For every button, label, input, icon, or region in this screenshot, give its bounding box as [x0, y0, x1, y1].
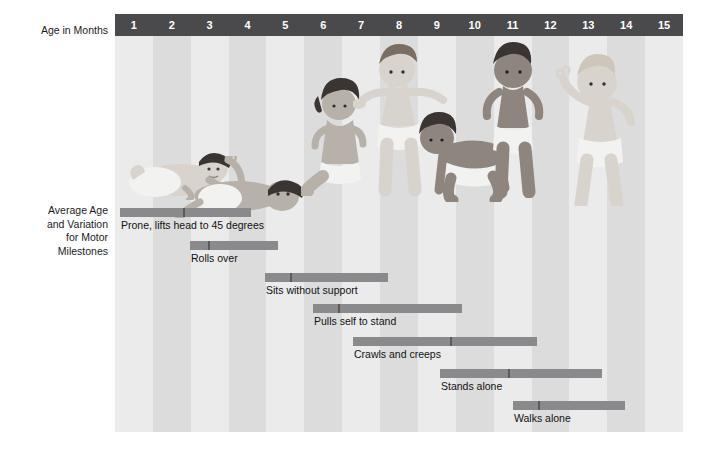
milestone-label: Walks alone	[514, 412, 571, 424]
milestone-average-tick	[508, 369, 510, 378]
milestone-range-bar[interactable]	[353, 337, 537, 346]
milestone-average-tick	[338, 304, 340, 313]
milestone-range-bar[interactable]	[265, 273, 388, 282]
chart-plot-area: Prone, lifts head to 45 degreesRolls ove…	[115, 36, 683, 432]
milestone-label: Sits without support	[266, 284, 358, 296]
milestone-range-bar[interactable]	[513, 401, 625, 410]
month-axis-header: 123456789101112131415	[115, 14, 683, 36]
month-tick-9: 9	[419, 14, 455, 36]
month-tick-15: 15	[646, 14, 682, 36]
month-tick-8: 8	[381, 14, 417, 36]
milestone-average-tick	[538, 401, 540, 410]
month-tick-13: 13	[570, 14, 606, 36]
milestone-range-bar[interactable]	[120, 208, 251, 217]
milestone-label: Prone, lifts head to 45 degrees	[121, 219, 264, 231]
month-tick-5: 5	[267, 14, 303, 36]
milestone-label: Crawls and creeps	[354, 348, 441, 360]
milestone-average-tick	[208, 241, 210, 250]
milestone-range-bar[interactable]	[190, 241, 278, 250]
milestone-row: Crawls and creeps	[115, 337, 683, 367]
milestone-row: Stands alone	[115, 369, 683, 399]
milestone-average-tick	[450, 337, 452, 346]
milestones-axis-label: Average Age and Variation for Motor Mile…	[0, 204, 108, 258]
chart-bottom-edge	[0, 432, 703, 452]
month-tick-3: 3	[192, 14, 228, 36]
milestone-range-bar[interactable]	[440, 369, 602, 378]
milestone-rows: Prone, lifts head to 45 degreesRolls ove…	[115, 36, 683, 432]
milestone-row: Walks alone	[115, 401, 683, 431]
month-tick-12: 12	[532, 14, 568, 36]
month-tick-7: 7	[343, 14, 379, 36]
month-tick-2: 2	[154, 14, 190, 36]
age-axis-label: Age in Months	[0, 24, 108, 38]
milestone-average-tick	[290, 273, 292, 282]
milestone-label: Rolls over	[191, 252, 238, 264]
month-tick-10: 10	[457, 14, 493, 36]
milestone-label: Pulls self to stand	[314, 315, 396, 327]
month-tick-6: 6	[305, 14, 341, 36]
milestone-row: Rolls over	[115, 241, 683, 271]
month-tick-4: 4	[230, 14, 266, 36]
month-tick-1: 1	[116, 14, 152, 36]
month-tick-11: 11	[495, 14, 531, 36]
month-tick-14: 14	[608, 14, 644, 36]
milestone-label: Stands alone	[441, 380, 502, 392]
milestone-row: Sits without support	[115, 273, 683, 303]
milestone-row: Pulls self to stand	[115, 304, 683, 334]
chart-top-edge	[0, 0, 703, 6]
milestone-range-bar[interactable]	[313, 304, 462, 313]
motor-milestones-chart: Age in Months Average Age and Variation …	[0, 0, 703, 452]
milestone-row: Prone, lifts head to 45 degrees	[115, 208, 683, 238]
milestone-average-tick	[183, 208, 185, 217]
